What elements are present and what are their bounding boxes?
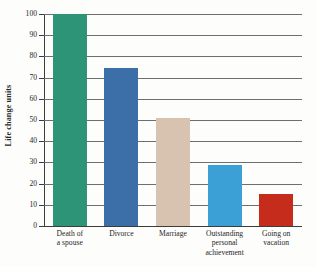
y-axis-tick-label: 20 [7, 180, 37, 188]
y-axis-tick-label: 0 [7, 222, 37, 230]
category-label-line: Going on [244, 229, 308, 238]
bar-chart-figure: Life change units 1009080706050403020100… [0, 0, 317, 267]
y-axis-tick-label: 10 [7, 201, 37, 209]
y-axis-tick-label: 40 [7, 137, 37, 145]
bar [156, 118, 190, 226]
category-label-line: a spouse [38, 238, 102, 247]
y-axis-tick-label: 50 [7, 116, 37, 124]
plot-area: 1009080706050403020100 [44, 14, 302, 227]
y-axis-tick-label: 80 [7, 52, 37, 60]
x-axis-category-labels: Death ofa spouseDivorceMarriageOutstandi… [44, 229, 302, 267]
bar [208, 165, 242, 226]
x-axis-category-label: Going onvacation [244, 229, 308, 248]
category-label-line: achievement [193, 248, 257, 257]
y-axis-tick-label: 60 [7, 95, 37, 103]
x-axis-line [44, 226, 302, 227]
y-axis-tick-label: 70 [7, 74, 37, 82]
category-label-line: vacation [244, 238, 308, 247]
y-axis-tick-label: 100 [7, 10, 37, 18]
y-axis-tick-label: 90 [7, 31, 37, 39]
bar [53, 14, 87, 226]
bar [259, 194, 293, 226]
y-axis-tick-labels: 1009080706050403020100 [4, 14, 44, 227]
bar [104, 68, 138, 226]
y-axis-tick-label: 30 [7, 158, 37, 166]
